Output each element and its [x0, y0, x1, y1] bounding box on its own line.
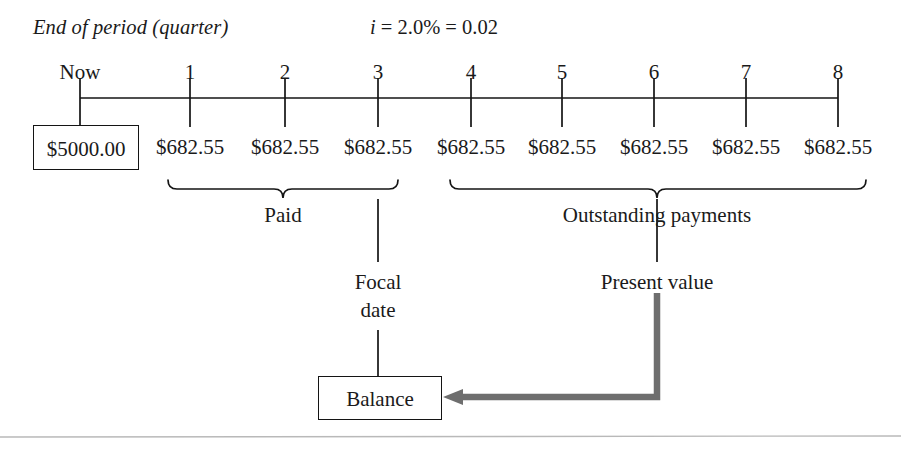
present-value-label: Present value	[601, 272, 714, 293]
payment-amount-7: $682.55	[712, 137, 780, 158]
timeline-label-6: 6	[649, 62, 660, 83]
timeline-label-4: 4	[466, 62, 477, 83]
timeline-label-7: 7	[741, 62, 752, 83]
timeline-label-now: Now	[60, 62, 101, 83]
present-value-arrow	[458, 293, 657, 397]
principal-amount: $5000.00	[34, 137, 138, 162]
timeline-label-3: 3	[373, 62, 384, 83]
payment-amount-4: $682.55	[437, 137, 505, 158]
present-value-arrowhead	[443, 389, 463, 405]
paid-brace-caption: Paid	[264, 205, 301, 226]
balance-box: Balance	[318, 376, 442, 420]
outstanding-brace	[450, 180, 866, 198]
payment-amount-8: $682.55	[804, 137, 872, 158]
focal-date-label-line1: Focal	[355, 272, 402, 293]
footer-rule	[0, 436, 901, 437]
interest-rate-label: i = 2.0% = 0.02	[370, 17, 498, 38]
payment-amount-6: $682.55	[620, 137, 688, 158]
payment-amount-5: $682.55	[528, 137, 596, 158]
timeline-ticks	[80, 78, 838, 127]
payment-amount-2: $682.55	[251, 137, 319, 158]
paid-brace	[168, 180, 398, 198]
timeline-label-1: 1	[185, 62, 196, 83]
payment-amount-3: $682.55	[344, 137, 412, 158]
timeline-label-8: 8	[833, 62, 844, 83]
balance-label: Balance	[319, 387, 441, 412]
payment-amount-1: $682.55	[156, 137, 224, 158]
diagram-vector-layer	[0, 0, 901, 449]
outstanding-brace-caption: Outstanding payments	[563, 205, 751, 226]
interest-rate-value: = 2.0% = 0.02	[376, 16, 498, 38]
timeline-label-5: 5	[557, 62, 568, 83]
focal-date-label-line2: date	[361, 300, 396, 321]
principal-box: $5000.00	[33, 125, 139, 170]
period-caption: End of period (quarter)	[33, 17, 228, 38]
timeline-diagram: End of period (quarter) i = 2.0% = 0.02 …	[0, 0, 901, 449]
timeline-label-2: 2	[280, 62, 291, 83]
